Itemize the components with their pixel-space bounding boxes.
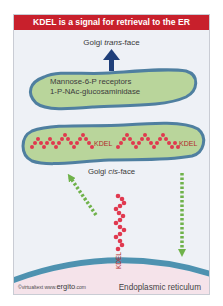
golgi-trans-face-label: Golgi trans-face — [14, 38, 209, 47]
mannose-receptor-label: Mannose-6-P receptors — [50, 77, 131, 86]
kdel-tag-free: KDEL — [115, 252, 122, 269]
diagram-scene — [14, 15, 210, 295]
diagram-frame: KDEL is a signal for retrieval to the ER — [13, 14, 210, 295]
golgi-cis-face-label: Golgi cis-face — [14, 167, 209, 176]
endoplasmic-reticulum-label: Endoplasmic reticulum — [119, 283, 201, 292]
up-arrow-icon — [103, 49, 120, 71]
free-kdel-protein-chain — [114, 194, 127, 252]
glucosaminidase-label: 1-P-NAc-glucosaminidase — [50, 87, 140, 96]
retrieval-arrow-icon — [70, 177, 96, 215]
copyright-credit: ©virtualtext www.ergito.com — [18, 282, 86, 291]
kdel-tag-right: KDEL — [179, 140, 197, 147]
kdel-tag-left: KDEL — [94, 140, 112, 147]
